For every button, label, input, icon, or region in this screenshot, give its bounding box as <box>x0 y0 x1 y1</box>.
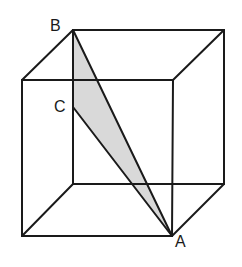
vertex-label-b: B <box>50 18 61 34</box>
cube-diagram: B C A <box>0 0 242 267</box>
edge-connect-bottom-left <box>22 184 73 236</box>
vertex-label-a: A <box>175 234 186 250</box>
edge-connect-bottom-right <box>172 184 224 236</box>
segment-ba <box>73 30 172 236</box>
point-label-c: C <box>54 99 66 115</box>
edge-connect-top-left <box>22 30 73 80</box>
cube-drawing <box>0 0 242 267</box>
edge-connect-top-right <box>173 30 224 80</box>
segment-ca <box>73 107 172 236</box>
edge-front-right <box>172 80 173 236</box>
